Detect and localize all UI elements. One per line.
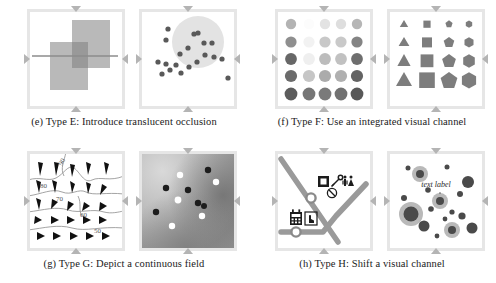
edge-marker-bottom-icon xyxy=(431,106,441,112)
shape-size-matrix-graphic xyxy=(390,12,482,106)
panel-pair-g: 90 80 70 60 50 xyxy=(0,148,248,256)
edge-marker-bottom-icon xyxy=(319,248,329,254)
wrench-icon xyxy=(332,175,343,186)
edge-marker-right-icon xyxy=(482,54,488,64)
edge-marker-bottom-icon xyxy=(71,248,81,254)
hand-icon xyxy=(305,212,317,225)
icon-cluster-lower xyxy=(290,209,317,225)
edge-marker-left-icon xyxy=(136,54,142,64)
icon-cluster-upper xyxy=(318,175,354,197)
scatter-translucent-circle-graphic xyxy=(142,12,234,106)
edge-marker-top-icon xyxy=(431,148,441,154)
scatter-translucent-circle-panel xyxy=(136,6,240,112)
edge-marker-top-icon xyxy=(71,6,81,12)
continuous-gradient-field-graphic xyxy=(142,154,234,248)
edge-marker-right-icon xyxy=(482,196,488,206)
panel-canvas xyxy=(30,12,122,106)
panel-pair-e xyxy=(0,6,248,114)
no-entry-icon xyxy=(327,188,336,197)
bubble-halo-scatter-panel: text label xyxy=(384,148,488,254)
figure-group-e: (e) Type E: Introduce translucent occlus… xyxy=(0,0,248,141)
edge-marker-top-icon xyxy=(431,6,441,12)
continuous-gradient-field-panel xyxy=(136,148,240,254)
figure-group-f: (f) Type F: Use an integrated visual cha… xyxy=(248,0,496,141)
edge-marker-left-icon xyxy=(272,54,278,64)
caption-h: (h) Type H: Shift a visual channel xyxy=(248,258,496,269)
edge-marker-bottom-icon xyxy=(71,106,81,112)
calculator-icon xyxy=(290,209,302,225)
bubble-annotation-label: text label xyxy=(421,180,451,189)
panel-canvas: 90 80 70 60 50 xyxy=(30,154,122,248)
edge-marker-top-icon xyxy=(183,6,193,12)
shape-size-matrix-panel xyxy=(384,6,488,112)
edge-marker-left-icon xyxy=(24,196,30,206)
panel-canvas: text label xyxy=(390,154,482,248)
contour-label-60: 60 xyxy=(80,211,88,219)
wind-barb-contour-panel: 90 80 70 60 50 xyxy=(24,148,128,254)
edge-marker-right-icon xyxy=(370,54,376,64)
edge-marker-top-icon xyxy=(319,6,329,12)
caption-e: (e) Type E: Introduce translucent occlus… xyxy=(0,116,248,127)
figure-group-h: text label (h) Type H: Shift a visual ch… xyxy=(248,142,496,283)
panel-pair-h: text label xyxy=(248,148,496,256)
edge-marker-left-icon xyxy=(384,196,390,206)
caption-g: (g) Type G: Depict a continuous field xyxy=(0,258,248,269)
translucent-rectangles-panel xyxy=(24,6,128,112)
contour-label-80: 80 xyxy=(40,182,48,190)
edge-marker-left-icon xyxy=(136,196,142,206)
panel-canvas xyxy=(142,12,234,106)
figure-group-g: 90 80 70 60 50 xyxy=(0,142,248,283)
caption-f: (f) Type F: Use an integrated visual cha… xyxy=(248,116,496,127)
edge-marker-top-icon xyxy=(319,148,329,154)
edge-marker-right-icon xyxy=(122,54,128,64)
edge-marker-right-icon xyxy=(234,54,240,64)
transit-map-icons-panel xyxy=(272,148,376,254)
bubble-halo-scatter-graphic: text label xyxy=(390,154,482,248)
panel-canvas xyxy=(278,12,370,106)
restroom-icon xyxy=(342,176,354,187)
panel-pair-f xyxy=(248,6,496,114)
edge-marker-left-icon xyxy=(272,196,278,206)
edge-marker-right-icon xyxy=(234,196,240,206)
transit-map-icons-graphic xyxy=(278,154,370,248)
panel-canvas xyxy=(278,154,370,248)
edge-marker-bottom-icon xyxy=(431,248,441,254)
contour-label-70: 70 xyxy=(56,195,64,203)
edge-marker-right-icon xyxy=(370,196,376,206)
figure-root: (e) Type E: Introduce translucent occlus… xyxy=(0,0,496,283)
grayscale-dot-matrix-graphic xyxy=(278,12,370,106)
edge-marker-bottom-icon xyxy=(183,248,193,254)
edge-marker-bottom-icon xyxy=(319,106,329,112)
edge-marker-right-icon xyxy=(122,196,128,206)
panel-canvas xyxy=(390,12,482,106)
panel-canvas xyxy=(142,154,234,248)
edge-marker-top-icon xyxy=(71,148,81,154)
grayscale-dot-matrix-panel xyxy=(272,6,376,112)
edge-marker-top-icon xyxy=(183,148,193,154)
wind-barb-contour-graphic: 90 80 70 60 50 xyxy=(30,154,122,248)
translucent-rectangles-graphic xyxy=(30,12,122,106)
contour-label-50: 50 xyxy=(94,227,102,235)
edge-marker-bottom-icon xyxy=(183,106,193,112)
edge-marker-left-icon xyxy=(384,54,390,64)
edge-marker-left-icon xyxy=(24,54,30,64)
